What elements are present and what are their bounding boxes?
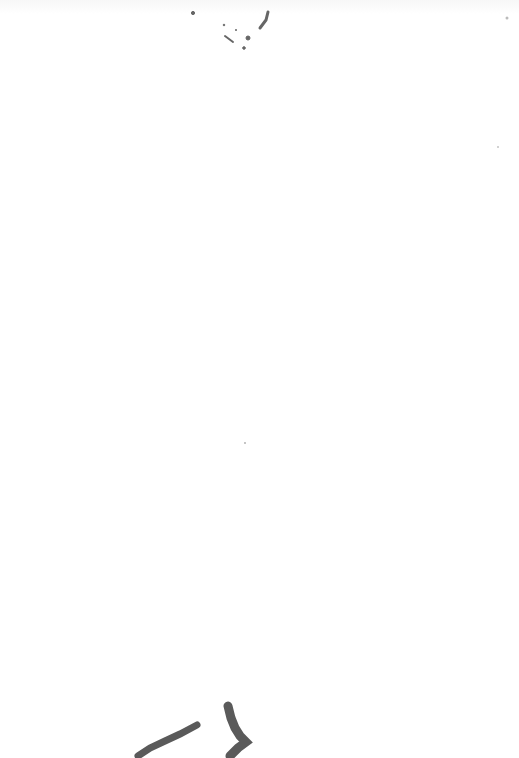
blank-page — [0, 0, 519, 758]
bottom-strokes — [138, 706, 246, 756]
ink-marks — [0, 0, 519, 758]
top-specks — [191, 11, 508, 444]
